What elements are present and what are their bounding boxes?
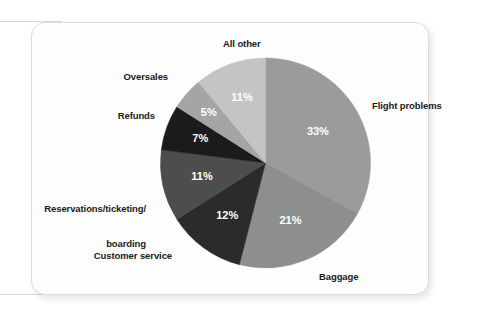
pie-label-refunds: Refunds	[48, 110, 155, 122]
pie-label-all-other: All other	[223, 38, 261, 50]
pie-label-oversales: Oversales	[58, 71, 168, 83]
pie-label-customer-service: Customer service	[70, 250, 172, 262]
pie-label-reservations-line1: Reservations/ticketing/	[12, 203, 146, 215]
figure-root: 33%21%12%11%7%5%11% All other Oversales …	[0, 0, 488, 326]
pie-label-flight-problems: Flight problems	[372, 100, 442, 112]
pie-label-reservations-line2: boarding	[12, 238, 146, 250]
pie-label-baggage: Baggage	[319, 271, 358, 283]
